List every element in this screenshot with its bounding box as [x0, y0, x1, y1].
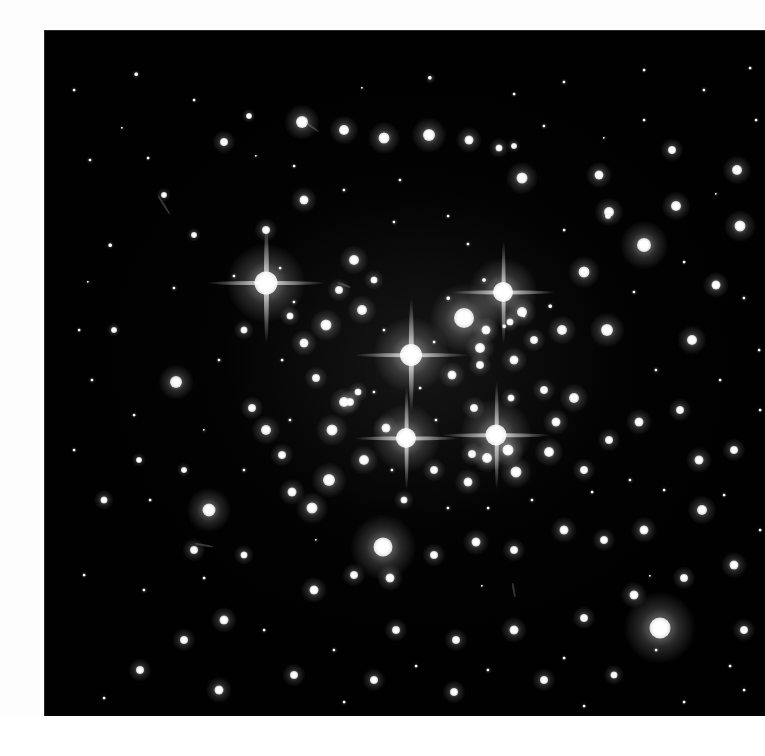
star-glow: [757, 407, 764, 414]
star-faint-stars: [562, 80, 565, 83]
star-bright-stars-with-diffraction-spikes: [396, 428, 416, 448]
star-glow: [94, 490, 114, 510]
star-medium-stars: [580, 614, 588, 622]
star-faint-stars: [683, 261, 686, 264]
star-glow: [431, 339, 438, 346]
star-glow: [341, 699, 348, 706]
star-medium-stars: [712, 281, 721, 290]
star-glow: [211, 607, 237, 633]
star-medium-stars: [296, 116, 308, 128]
emulsion-scratch: [512, 583, 516, 597]
star-glow: [106, 241, 115, 250]
star-medium-stars: [321, 320, 332, 331]
star-faint-stars: [147, 157, 150, 160]
star-medium-stars: [452, 636, 460, 644]
star-faint-stars: [583, 705, 586, 708]
star-glow: [620, 221, 668, 269]
star-faint-stars: [343, 701, 346, 704]
star-medium-stars: [511, 467, 522, 478]
star-medium-stars: [637, 238, 651, 252]
star-medium-stars: [288, 488, 297, 497]
star-glow: [286, 416, 294, 424]
star-glow: [581, 703, 588, 710]
star-glow: [81, 572, 88, 579]
star-faint-stars: [742, 296, 745, 299]
star-glow: [425, 73, 436, 84]
star-glow: [390, 218, 398, 226]
star-glow: [312, 463, 347, 498]
star-glow: [201, 427, 207, 433]
star-medium-stars: [732, 165, 742, 175]
star-glow: [396, 176, 404, 184]
star-medium-stars: [508, 395, 515, 402]
star-glow: [508, 298, 537, 327]
star-medium-stars: [530, 336, 538, 344]
star-glow: [394, 490, 414, 510]
star-faint-stars: [628, 478, 631, 481]
star-faint-stars: [288, 418, 291, 421]
star-glow: [340, 246, 369, 275]
star-glow: [430, 284, 498, 352]
star-glow: [170, 284, 178, 292]
star-medium-stars: [580, 466, 588, 474]
star-glow: [422, 458, 445, 481]
star-faint-stars: [142, 588, 145, 591]
star-glow: [501, 617, 527, 643]
star-faint-stars: [428, 76, 432, 80]
star-faint-stars: [632, 290, 635, 293]
star-medium-stars: [203, 504, 216, 517]
star-glow: [747, 65, 754, 72]
emulsion-scratch: [337, 282, 351, 289]
star-glow: [641, 117, 648, 124]
star-medium-stars: [552, 418, 561, 427]
star-glow: [240, 466, 248, 474]
star-medium-stars: [595, 171, 604, 180]
star-glow: [652, 366, 660, 374]
star-glow: [479, 275, 489, 285]
caption-strip: [0, 716, 765, 756]
star-medium-stars: [349, 255, 359, 265]
star-glow: [277, 265, 284, 272]
star-glow: [589, 489, 596, 496]
star-glow: [626, 476, 634, 484]
star-glow: [460, 399, 531, 470]
star-glow: [460, 442, 483, 465]
star-faint-stars: [729, 665, 732, 668]
star-glow: [444, 294, 453, 303]
star-glow: [464, 240, 472, 248]
star-glow: [76, 327, 83, 334]
star-faint-stars: [522, 314, 525, 317]
star-glow: [500, 322, 509, 331]
star-glow: [212, 130, 235, 153]
emulsion-scratch: [305, 122, 319, 133]
page-root: [0, 0, 765, 756]
star-medium-stars: [605, 436, 613, 444]
star-glow: [741, 687, 748, 694]
star-medium-stars: [312, 374, 320, 382]
star-medium-stars: [448, 371, 457, 380]
star-glow: [543, 409, 569, 435]
star-glow: [455, 469, 481, 495]
star-glow: [740, 294, 748, 302]
star-faint-stars: [482, 278, 486, 282]
star-faint-stars: [655, 649, 658, 652]
star-medium-stars: [557, 325, 567, 335]
star-faint-stars: [447, 215, 450, 218]
star-glow: [285, 105, 320, 140]
star-glow: [253, 153, 259, 159]
star-glow: [370, 388, 378, 396]
star-medium-stars: [220, 138, 228, 146]
star-medium-stars: [680, 574, 688, 582]
star-glow: [473, 317, 499, 343]
star-glow: [279, 479, 305, 505]
star-bright-stars-with-diffraction-spikes: [255, 272, 278, 295]
star-glow: [351, 515, 416, 580]
star-medium-stars: [290, 671, 298, 679]
star-medium-stars: [671, 201, 681, 211]
star-glow: [412, 118, 447, 153]
diffraction-spike-cross: [503, 292, 504, 293]
star-medium-stars: [476, 361, 484, 369]
star-medium-stars: [579, 267, 590, 278]
star-faint-stars: [663, 489, 666, 492]
star-glow: [201, 575, 208, 582]
